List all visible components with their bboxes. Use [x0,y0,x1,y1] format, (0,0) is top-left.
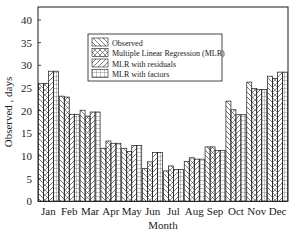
legend-swatch [92,70,108,78]
x-tick-label: Apr [102,205,119,217]
bar [278,72,283,201]
bar [241,115,246,202]
y-axis-title: Observed , days [2,77,14,148]
bar [215,151,220,202]
bar [153,152,158,201]
y-tick-label: 0 [27,195,33,207]
y-tick-label: 40 [21,14,33,26]
x-tick-label: Feb [61,205,78,217]
bar [236,115,241,202]
bar [74,114,79,201]
legend-label: Multiple Linear Regression (MLR) [112,49,225,58]
bar [137,146,142,202]
bar [106,141,111,201]
bar [199,159,204,201]
legend: ObservedMultiple Linear Regression (MLR)… [88,34,225,81]
bar-group-nov [247,82,267,201]
bar-group-jan [38,71,58,201]
x-tick-label: Mar [81,205,100,217]
bar [173,170,178,202]
bar-group-feb [59,96,79,201]
bar [257,89,262,201]
bar-group-dec [268,72,288,201]
bar-group-jul [163,166,183,201]
bar-group-sep [205,147,225,201]
legend-swatch [92,38,108,46]
bar-group-jun [143,152,163,201]
y-tick-label: 35 [21,37,33,49]
bar [127,151,132,201]
x-tick-label: Nov [247,205,266,217]
y-tick-label: 15 [21,127,33,139]
x-tick-label: Jun [145,205,161,217]
bar-group-oct [226,101,246,201]
x-tick-label: Sep [207,205,224,217]
bar [143,169,148,202]
bar-group-may [122,146,142,202]
bar [95,112,100,201]
bar [273,78,278,201]
legend-swatch [92,49,108,57]
y-tick-label: 20 [21,105,33,117]
bar [220,151,225,202]
bar [101,148,106,201]
bar [178,170,183,202]
y-tick-label: 30 [21,59,33,71]
bar [168,166,173,201]
bar-group-mar [80,110,100,201]
legend-swatch [92,59,108,67]
bar [262,89,267,201]
bar [189,158,194,202]
bar [163,171,168,201]
y-tick-label: 25 [21,82,33,94]
bar [111,143,116,201]
x-tick-label: Aug [185,205,204,217]
legend-label: MLR with factors [112,70,169,79]
x-tick-label: May [122,205,143,217]
x-tick-label: Dec [269,205,287,217]
x-tick-label: Jul [167,205,180,217]
bar [38,83,43,201]
x-tick-label: Oct [228,205,244,217]
bar [158,152,163,201]
bar [268,76,273,201]
bar [53,71,58,201]
bar-group-aug [184,158,204,202]
bar [184,161,189,201]
bar [283,72,288,201]
bar [80,110,85,201]
bar [247,82,252,201]
bar [48,71,53,201]
legend-label: MLR with residuals [112,60,176,69]
bar-group-apr [101,141,121,201]
bar [252,88,257,201]
y-tick-label: 5 [27,173,33,185]
bar [226,101,231,201]
bar [132,146,137,202]
bar [90,112,95,201]
bar [194,159,199,201]
bar [69,114,74,201]
bar [43,83,48,201]
bar [205,147,210,201]
bar [122,148,127,201]
x-axis-title: Month [148,219,178,231]
bar [64,97,69,201]
bar [59,96,64,201]
x-tick-label: Jan [41,205,56,217]
legend-label: Observed [112,39,143,48]
bar [231,110,236,202]
bar [210,147,215,201]
grouped-bar-chart: 0510152025303540JanFebMarAprMayJunJulAug… [0,0,303,237]
bar [85,116,90,201]
bar [116,143,121,201]
y-tick-label: 10 [21,150,33,162]
bar [148,162,153,201]
